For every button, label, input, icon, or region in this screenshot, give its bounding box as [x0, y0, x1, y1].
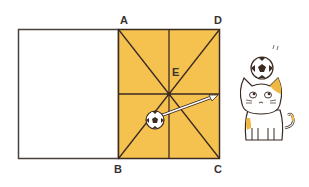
geometry-diagram [0, 0, 309, 187]
cat-soccer-ball-icon [251, 57, 273, 79]
label-d: D [214, 14, 222, 26]
cat-illustration [240, 45, 293, 140]
center-point-e [167, 92, 171, 96]
label-a: A [120, 14, 128, 26]
soccer-ball-icon [146, 111, 164, 129]
label-c: C [214, 163, 222, 175]
label-b: B [114, 163, 122, 175]
white-rectangle [19, 30, 119, 159]
label-e: E [172, 66, 179, 78]
